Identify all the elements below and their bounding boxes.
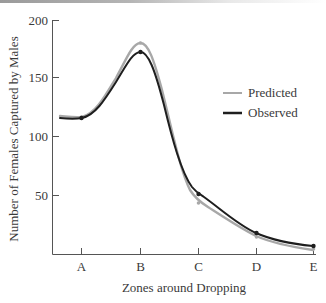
x-axis-title: Zones around Dropping [122, 280, 247, 295]
series-observed [60, 50, 316, 248]
legend-item-predicted: Predicted [223, 85, 298, 100]
x-axis: A B C D E [53, 248, 318, 274]
x-tick-b: B [136, 259, 145, 274]
y-tick-100: 100 [29, 129, 49, 144]
legend-label-observed: Observed [248, 105, 298, 120]
x-tick-c: C [194, 259, 203, 274]
y-tick-50: 50 [35, 188, 48, 203]
y-tick-150: 150 [29, 70, 49, 85]
x-tick-e: E [310, 259, 318, 274]
x-tick-a: A [77, 259, 87, 274]
y-tick-200: 200 [29, 13, 49, 28]
legend-item-observed: Observed [223, 105, 298, 120]
y-axis-title: Number of Females Captured by Males [6, 36, 21, 241]
series-predicted [60, 41, 315, 251]
line-chart: 200 150 100 50 A B C D E Zones around Dr… [0, 0, 326, 303]
y-axis: 200 150 100 50 [29, 13, 60, 255]
legend: Predicted Observed [223, 85, 298, 120]
x-tick-d: D [252, 259, 261, 274]
legend-label-predicted: Predicted [248, 85, 298, 100]
